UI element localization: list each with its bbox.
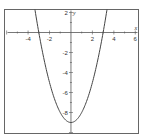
parabola-chart: -4-22462-2-4-6-8 x y (0, 0, 141, 136)
y-tick-label: -6 (63, 90, 69, 96)
x-tick-label: -4 (25, 36, 31, 42)
x-axis-label: x (134, 25, 138, 31)
plot-frame (5, 10, 139, 134)
y-tick-label: -8 (63, 110, 69, 116)
x-tick-label: -2 (47, 36, 53, 42)
y-tick-label: -2 (63, 50, 69, 56)
y-axis-label: y (72, 10, 76, 16)
y-tick-label: -4 (63, 70, 69, 76)
